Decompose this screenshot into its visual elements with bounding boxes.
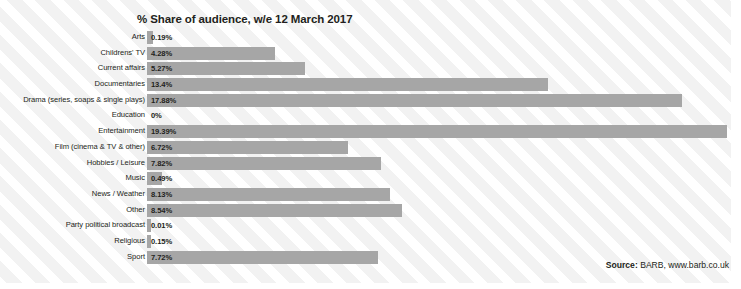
- value-label: 17.88%: [151, 96, 176, 105]
- chart-title: % Share of audience, w/e 12 March 2017: [137, 13, 352, 25]
- category-label: Music: [0, 173, 145, 182]
- category-label: Education: [0, 110, 145, 119]
- source-value: BARB, www.barb.co.uk: [638, 260, 729, 270]
- value-label: 19.39%: [151, 127, 176, 136]
- category-label: Entertainment: [0, 126, 145, 135]
- bar: [147, 141, 348, 154]
- bar: [147, 188, 390, 201]
- value-label: 6.72%: [151, 143, 172, 152]
- value-label: 7.72%: [151, 253, 172, 262]
- bar-row: Education0%: [0, 109, 741, 125]
- bar-track: [147, 157, 381, 170]
- source-attribution: Source: BARB, www.barb.co.uk: [606, 260, 729, 270]
- bar-track: [147, 78, 548, 91]
- category-label: Sport: [0, 252, 145, 261]
- value-label: 8.13%: [151, 190, 172, 199]
- bar-row: Party political broadcast0.01%: [0, 219, 741, 235]
- category-label: Hobbies / Leisure: [0, 158, 145, 167]
- bar: [147, 125, 727, 138]
- bar: [147, 94, 682, 107]
- bottom-margin-spacer: [0, 283, 741, 289]
- bar-row: Current affairs5.27%: [0, 62, 741, 78]
- bar-track: [147, 251, 378, 264]
- source-label: Source:: [606, 260, 638, 270]
- category-label: Film (cinema & TV & other): [0, 142, 145, 151]
- value-label: 5.27%: [151, 64, 172, 73]
- category-label: Party political broadcast: [0, 220, 145, 229]
- bar-track: [147, 204, 402, 217]
- category-label: Documentaries: [0, 79, 145, 88]
- value-label: 4.28%: [151, 49, 172, 58]
- value-label: 0.01%: [151, 221, 172, 230]
- bar-track: [147, 94, 682, 107]
- bar-row: Hobbies / Leisure7.82%: [0, 157, 741, 173]
- bar-row: Other8.54%: [0, 204, 741, 220]
- bar-row: Documentaries13.4%: [0, 78, 741, 94]
- category-label: Drama (series, soaps & single plays): [0, 95, 145, 104]
- bar-chart-plot-area: Arts0.19%Childrens' TV4.28%Current affai…: [0, 31, 741, 266]
- right-margin-spacer: [731, 0, 741, 289]
- bar-track: [147, 188, 390, 201]
- bar-row: News / Weather8.13%: [0, 188, 741, 204]
- value-label: 0.15%: [151, 237, 172, 246]
- bar-track: [147, 141, 348, 154]
- category-label: News / Weather: [0, 189, 145, 198]
- bar-track: [147, 125, 727, 138]
- category-label: Childrens' TV: [0, 48, 145, 57]
- category-label: Religious: [0, 236, 145, 245]
- category-label: Current affairs: [0, 63, 145, 72]
- value-label: 0.49%: [151, 174, 172, 183]
- bar: [147, 251, 378, 264]
- value-label: 7.82%: [151, 159, 172, 168]
- bar: [147, 204, 402, 217]
- value-label: 0%: [151, 111, 162, 120]
- bar: [147, 157, 381, 170]
- bar: [147, 78, 548, 91]
- bar-row: Religious0.15%: [0, 235, 741, 251]
- bar-row: Entertainment19.39%: [0, 125, 741, 141]
- chart-container: % Share of audience, w/e 12 March 2017 A…: [0, 0, 741, 289]
- category-label: Other: [0, 205, 145, 214]
- bar-row: Arts0.19%: [0, 31, 741, 47]
- bar-row: Childrens' TV4.28%: [0, 47, 741, 63]
- category-label: Arts: [0, 32, 145, 41]
- value-label: 8.54%: [151, 206, 172, 215]
- value-label: 0.19%: [151, 33, 172, 42]
- bar-row: Music0.49%: [0, 172, 741, 188]
- bar-row: Drama (series, soaps & single plays)17.8…: [0, 94, 741, 110]
- value-label: 13.4%: [151, 80, 172, 89]
- bar-row: Film (cinema & TV & other)6.72%: [0, 141, 741, 157]
